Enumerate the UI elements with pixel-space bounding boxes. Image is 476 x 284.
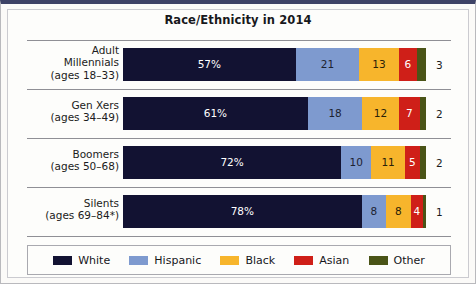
bar-segment-other: 2 <box>420 97 426 130</box>
legend-item-asian[interactable]: Asian <box>294 254 349 267</box>
row-separator <box>27 40 451 41</box>
bar-segment-white: 78% <box>123 195 362 228</box>
row-category-label: AdultMillennials(ages 18–33) <box>27 44 119 81</box>
chart-row: AdultMillennials(ages 18–33)57%2113633 <box>27 40 451 89</box>
row-category-label: Boomers(ages 50–68) <box>27 148 119 173</box>
segment-value-label: 6 <box>404 59 411 70</box>
bar-segment-black: 12 <box>362 97 398 130</box>
row-separator <box>27 236 451 237</box>
stacked-bar: 72%101152 <box>123 146 426 179</box>
segment-value-label: 10 <box>350 157 363 168</box>
bar-segment-white: 72% <box>123 146 341 179</box>
stacked-bar-plot: AdultMillennials(ages 18–33)57%2113633Ge… <box>27 40 451 236</box>
legend-swatch-icon <box>294 256 313 265</box>
bar-segment-other: 3 <box>417 48 426 81</box>
legend-item-black[interactable]: Black <box>220 254 275 267</box>
bar-segment-asian: 6 <box>399 48 417 81</box>
legend-label: Other <box>394 254 425 267</box>
legend-label: White <box>78 254 110 267</box>
row-category-label-line: (ages 18–33) <box>27 69 119 81</box>
segment-value-label: 57% <box>198 59 221 70</box>
segment-value-label-outside: 2 <box>436 97 443 130</box>
bar-segment-other: 2 <box>420 146 426 179</box>
row-category-label-line: Adult <box>27 44 119 56</box>
segment-value-label: 11 <box>381 157 394 168</box>
row-separator <box>27 89 451 90</box>
segment-value-label: 21 <box>321 59 334 70</box>
segment-value-label: 5 <box>409 157 416 168</box>
chart-title: Race/Ethnicity in 2014 <box>1 13 475 27</box>
legend-swatch-icon <box>220 256 239 265</box>
bar-segment-hispanic: 21 <box>296 48 360 81</box>
row-category-label-line: Boomers <box>27 148 119 160</box>
segment-value-label: 7 <box>406 108 413 119</box>
row-category-label: Silents(ages 69–84*) <box>27 197 119 222</box>
chart-row: Silents(ages 69–84*)78%88411 <box>27 187 451 236</box>
chart-row: Boomers(ages 50–68)72%1011522 <box>27 138 451 187</box>
row-category-label-line: (ages 69–84*) <box>27 209 119 221</box>
row-category-label-line: (ages 34–49) <box>27 111 119 123</box>
bar-segment-white: 57% <box>123 48 296 81</box>
row-category-label-line: (ages 50–68) <box>27 160 119 172</box>
legend-item-other[interactable]: Other <box>369 254 425 267</box>
segment-value-label: 12 <box>374 108 387 119</box>
segment-value-label-outside: 2 <box>436 146 443 179</box>
chart-legend: WhiteHispanicBlackAsianOther <box>27 245 451 275</box>
row-separator <box>27 187 451 188</box>
segment-value-label: 8 <box>395 206 402 217</box>
bar-segment-asian: 7 <box>399 97 420 130</box>
legend-label: Asian <box>319 254 349 267</box>
bar-segment-asian: 5 <box>405 146 420 179</box>
bar-segment-black: 8 <box>386 195 410 228</box>
bar-segment-black: 13 <box>359 48 398 81</box>
bar-segment-asian: 4 <box>411 195 423 228</box>
legend-swatch-icon <box>129 256 148 265</box>
segment-value-label: 61% <box>204 108 227 119</box>
bar-segment-hispanic: 18 <box>308 97 363 130</box>
legend-label: Hispanic <box>154 254 201 267</box>
bar-segment-hispanic: 8 <box>362 195 386 228</box>
row-category-label-line: Millennials <box>27 56 119 68</box>
row-category-label: Gen Xers(ages 34–49) <box>27 99 119 124</box>
bar-segment-white: 61% <box>123 97 308 130</box>
segment-value-label-outside: 1 <box>436 195 443 228</box>
row-separator <box>27 138 451 139</box>
legend-swatch-icon <box>53 256 72 265</box>
bar-segment-other: 1 <box>423 195 426 228</box>
stacked-bar: 78%8841 <box>123 195 426 228</box>
legend-item-white[interactable]: White <box>53 254 110 267</box>
segment-value-label: 8 <box>371 206 378 217</box>
segment-value-label: 4 <box>413 206 420 217</box>
legend-label: Black <box>245 254 275 267</box>
chart-row: Gen Xers(ages 34–49)61%1812722 <box>27 89 451 138</box>
segment-value-label: 18 <box>328 108 341 119</box>
chart-figure: Race/Ethnicity in 2014 AdultMillennials(… <box>0 0 476 284</box>
row-category-label-line: Silents <box>27 197 119 209</box>
segment-value-label-outside: 3 <box>436 48 443 81</box>
legend-item-hispanic[interactable]: Hispanic <box>129 254 201 267</box>
bar-segment-black: 11 <box>371 146 404 179</box>
segment-value-label: 78% <box>231 206 254 217</box>
stacked-bar: 61%181272 <box>123 97 426 130</box>
legend-swatch-icon <box>369 256 388 265</box>
segment-value-label: 72% <box>220 157 243 168</box>
segment-value-label: 13 <box>372 59 385 70</box>
bar-segment-hispanic: 10 <box>341 146 371 179</box>
row-category-label-line: Gen Xers <box>27 99 119 111</box>
stacked-bar: 57%211363 <box>123 48 426 81</box>
